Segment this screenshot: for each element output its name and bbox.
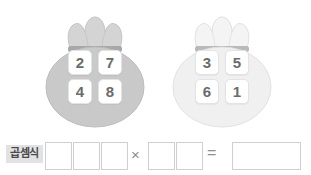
equation-label: 곱셈식	[6, 145, 43, 163]
multiplication-sign: ×	[131, 147, 140, 162]
digit-input-box[interactable]	[176, 142, 203, 170]
multiplier-input-group	[148, 142, 203, 170]
number-tile[interactable]: 3	[195, 50, 219, 75]
digit-input-box[interactable]	[73, 142, 100, 170]
tile-grid-left: 2 7 4 8	[68, 50, 122, 104]
answer-row: 곱셈식 × =	[0, 140, 311, 175]
worksheet-stage: 2 7 4 8 3 5 6 1 곱셈식	[0, 0, 311, 175]
equals-sign: =	[207, 145, 216, 161]
bag-top-ruffle-left	[68, 17, 122, 48]
number-tile[interactable]: 5	[225, 50, 249, 75]
number-tile[interactable]: 6	[195, 79, 219, 104]
bag-top-ruffle-right	[195, 17, 249, 48]
multiplicand-input-group	[45, 142, 128, 170]
number-bag-left: 2 7 4 8	[40, 8, 150, 133]
tile-grid-right: 3 5 6 1	[195, 50, 249, 104]
result-input-box[interactable]	[232, 142, 301, 170]
digit-input-box[interactable]	[148, 142, 175, 170]
number-tile[interactable]: 1	[225, 79, 249, 104]
number-tile[interactable]: 8	[98, 79, 122, 104]
digit-input-box[interactable]	[45, 142, 72, 170]
number-tile[interactable]: 2	[68, 50, 92, 75]
number-tile[interactable]: 4	[68, 79, 92, 104]
digit-input-box[interactable]	[101, 142, 128, 170]
number-tile[interactable]: 7	[98, 50, 122, 75]
number-bag-right: 3 5 6 1	[167, 8, 277, 133]
